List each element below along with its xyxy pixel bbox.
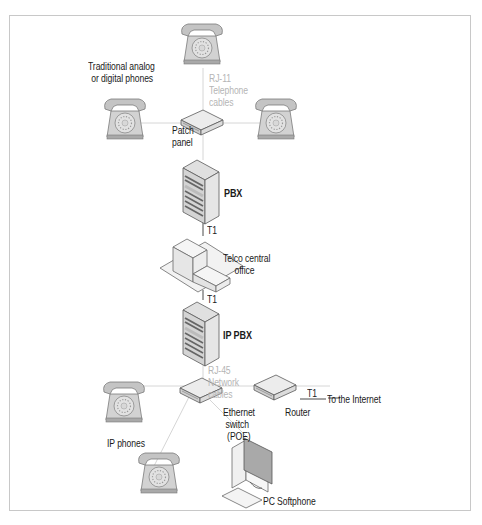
label-rj45-line2: Network — [208, 376, 239, 388]
ip-phone-1-icon — [104, 382, 145, 422]
pbx-icon — [183, 160, 219, 224]
label-traditional-phones-line1: Traditional analog — [88, 60, 155, 72]
label-patch-panel: Patch panel — [172, 124, 194, 148]
ip-pbx-icon — [183, 302, 219, 366]
label-rj45-line3: cables — [208, 388, 239, 400]
phone-left-icon — [105, 99, 146, 139]
label-to-internet: To the Internet — [327, 393, 381, 405]
label-ethernet-switch: Ethernet switch (POE) — [223, 406, 255, 442]
label-t1-lower: T1 — [207, 293, 217, 305]
ip-phone-2-icon — [139, 453, 180, 493]
router-icon — [254, 375, 296, 400]
label-rj11-line2: Telephone — [209, 84, 248, 96]
label-patch-panel-line2: panel — [172, 136, 194, 148]
label-rj45-cables: RJ-45 Network cables — [208, 364, 239, 400]
label-traditional-phones: Traditional analog or digital phones — [88, 60, 155, 84]
label-rj11-line3: cables — [209, 96, 248, 108]
label-pbx: PBX — [224, 187, 242, 199]
label-rj11-line1: RJ-11 — [209, 72, 248, 84]
label-t1-upper: T1 — [207, 224, 217, 236]
label-traditional-phones-line2: or digital phones — [88, 72, 155, 84]
label-router: Router — [285, 406, 310, 418]
label-switch-line2: switch — [223, 418, 255, 430]
label-switch-line1: Ethernet — [223, 406, 255, 418]
label-pc-softphone: PC Softphone — [263, 495, 316, 507]
phone-top-icon — [182, 24, 223, 64]
label-telco-office: Telco central office — [223, 252, 270, 276]
label-rj11-cables: RJ-11 Telephone cables — [209, 72, 248, 108]
label-telco-line2: office — [223, 264, 270, 276]
label-telco-line1: Telco central — [223, 252, 270, 264]
label-patch-panel-line1: Patch — [172, 124, 194, 136]
label-ip-phones: IP phones — [107, 437, 145, 449]
label-rj45-line1: RJ-45 — [208, 364, 239, 376]
phone-right-icon — [256, 99, 297, 139]
label-t1-router: T1 — [307, 387, 317, 399]
label-switch-line3: (POE) — [223, 430, 255, 442]
label-ip-pbx: IP PBX — [223, 329, 252, 341]
